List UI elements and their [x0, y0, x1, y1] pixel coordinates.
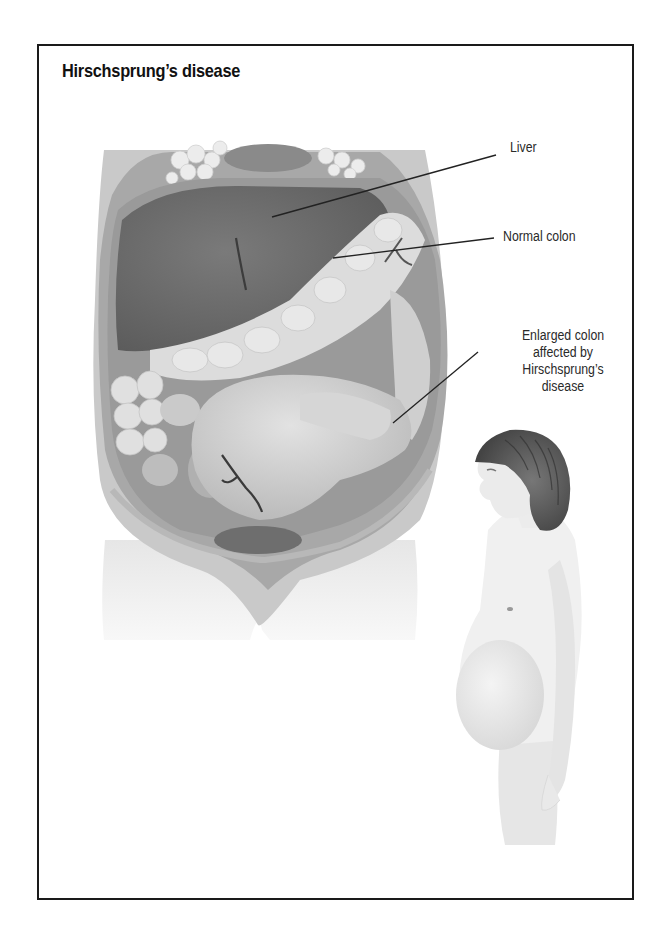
child-illustration: [456, 430, 582, 845]
label-enlarged-line-2: affected by: [497, 344, 629, 361]
label-normal-colon: Normal colon: [503, 228, 576, 245]
label-enlarged-colon: Enlarged colon affected by Hirschsprung’…: [497, 327, 629, 395]
label-enlarged-line-4: disease: [497, 378, 629, 395]
abdomen-illustration: [93, 141, 447, 640]
label-enlarged-line-3: Hirschsprung’s: [497, 361, 629, 378]
label-enlarged-line-1: Enlarged colon: [497, 327, 629, 344]
label-liver: Liver: [510, 139, 537, 156]
anatomy-illustration: [0, 0, 670, 940]
